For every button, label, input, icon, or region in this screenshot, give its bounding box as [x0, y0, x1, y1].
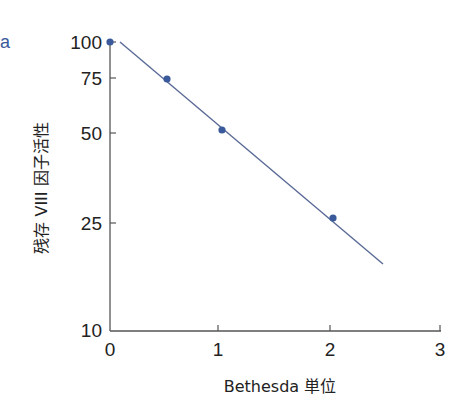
x-axis-title: Bethesda 単位 — [224, 377, 336, 396]
y-tick-label: 25 — [81, 213, 102, 234]
data-point — [329, 214, 336, 221]
y-tick-label: 50 — [81, 123, 102, 144]
y-tick-label: 100 — [70, 32, 102, 53]
y-ticks — [110, 42, 116, 223]
data-point — [218, 126, 225, 133]
y-tick-label: 75 — [81, 68, 102, 89]
fit-line — [120, 42, 383, 264]
x-ticks — [218, 325, 440, 331]
y-tick-label: 10 — [81, 320, 102, 341]
data-point — [163, 75, 170, 82]
y-axis-title: 残存 VIII 因子活性 — [32, 122, 51, 253]
data-points — [106, 38, 336, 221]
x-tick-label: 3 — [435, 339, 446, 360]
data-point — [106, 38, 113, 45]
x-tick-label: 2 — [325, 339, 336, 360]
x-tick-label: 0 — [105, 339, 116, 360]
x-tick-label: 1 — [213, 339, 224, 360]
chart: 100 75 50 25 10 0 1 2 3 Bethesda 単位 残存 V… — [0, 0, 469, 418]
